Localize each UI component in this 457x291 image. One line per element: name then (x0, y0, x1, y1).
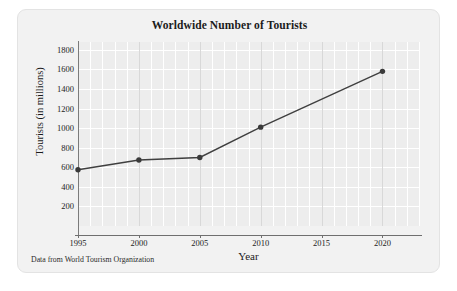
data-point-marker (258, 124, 263, 129)
chart-card: Worldwide Number of Tourists 20040060080… (17, 9, 440, 273)
data-point-marker (136, 157, 141, 162)
x-axis-tick-label: 2000 (130, 238, 147, 248)
source-note: Data from World Tourism Organization (31, 255, 154, 264)
x-axis-tick-label: 2005 (191, 238, 208, 248)
data-point-marker (197, 155, 202, 160)
y-axis-title: Tourists (in millions) (34, 32, 45, 192)
data-line (78, 71, 382, 169)
x-axis-tick-label: 1995 (70, 238, 87, 248)
data-point-marker (380, 69, 385, 74)
data-series-layer (18, 10, 441, 274)
x-axis-tick-label: 2020 (374, 238, 391, 248)
data-point-marker (75, 167, 80, 172)
x-axis-tick-label: 2010 (252, 238, 269, 248)
x-axis-tick-label: 2015 (313, 238, 330, 248)
